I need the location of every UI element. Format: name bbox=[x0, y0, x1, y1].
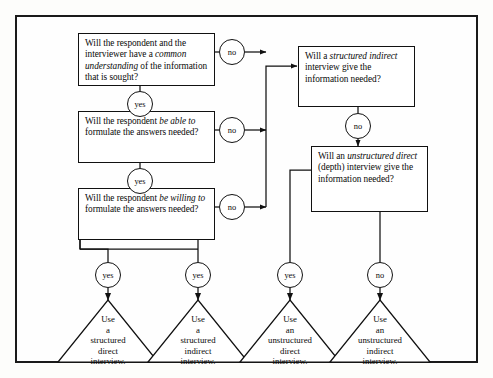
decision-q3-no: no bbox=[219, 194, 245, 220]
outcome-triangle-4: Useanunstructuredindirectinterview. bbox=[324, 292, 436, 370]
decision-q1-no: no bbox=[219, 39, 245, 65]
flowchart-canvas: Will the respondent and the interviewer … bbox=[0, 0, 493, 378]
decision-q2-yes: yes bbox=[127, 168, 153, 194]
question-box-q4: Will a structured indirect interview giv… bbox=[298, 46, 415, 107]
decision-outcome2-yes: yes bbox=[185, 262, 211, 288]
decision-q2-no: no bbox=[219, 117, 245, 143]
question-box-q3: Will the respondent be willing to formul… bbox=[78, 188, 215, 240]
question-box-q5: Will an unstructured direct (depth) inte… bbox=[311, 146, 428, 212]
decision-outcome4-no: no bbox=[367, 262, 393, 288]
decision-q4-no: no bbox=[345, 113, 371, 139]
outcome-label-4: Useanunstructuredindirectinterview. bbox=[324, 314, 436, 367]
decision-outcome3-yes: yes bbox=[277, 262, 303, 288]
question-box-q2: Will the respondent be able to formulate… bbox=[78, 111, 215, 163]
decision-q1-yes: yes bbox=[127, 91, 153, 117]
decision-outcome1-yes: yes bbox=[95, 262, 121, 288]
question-box-q1: Will the respondent and the interviewer … bbox=[78, 33, 215, 86]
